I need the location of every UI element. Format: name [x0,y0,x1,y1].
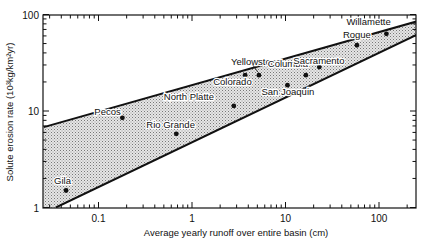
x-axis-label: Average yearly runoff over entire basin … [144,227,328,238]
erosion-runoff-chart: 0.1110100110100 GilaPecosRio GrandeNorth… [0,0,424,242]
point-label: Rogue [343,29,371,40]
data-point [384,31,389,36]
data-point [303,73,308,78]
y-axis-label: Solute erosion rate (10³kg/km²yr) [4,43,15,182]
x-tick-label: 10 [280,213,292,224]
data-point [64,188,69,193]
data-point [257,73,262,78]
data-point [174,131,179,136]
point-label: Rio Grande [146,119,195,130]
point-label: Sacramento [293,55,344,66]
point-label: San Joaquin [261,86,314,97]
point-label: Willamette [346,16,390,27]
point-label: Pecos [94,106,121,117]
point-label: North Platte [164,91,214,102]
point-label: Colorado [213,76,252,87]
data-point [231,103,236,108]
y-tick-label: 10 [28,106,40,117]
x-tick-label: 1 [189,213,195,224]
y-tick-label: 1 [33,203,39,214]
x-tick-label: 100 [371,213,388,224]
y-tick-label: 100 [22,10,39,21]
data-point [354,43,359,48]
x-tick-label: 0.1 [92,213,106,224]
point-label: Gila [54,175,72,186]
